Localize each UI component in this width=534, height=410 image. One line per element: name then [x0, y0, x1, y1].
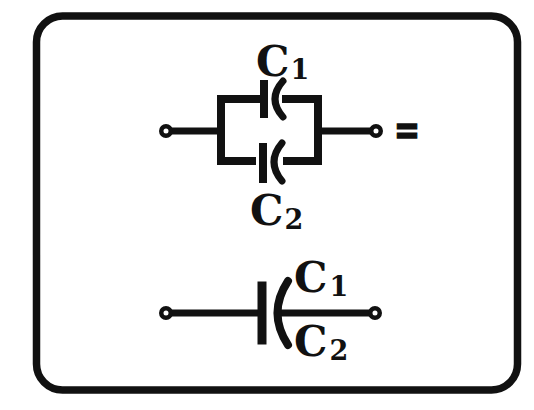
equivalent-right-terminal-icon [370, 308, 380, 318]
figure-canvas: C1 C2 = C1 C2 [0, 0, 534, 410]
parallel-loop-left-wire [221, 99, 261, 161]
equivalent-circuit: C1 C2 [161, 253, 380, 366]
parallel-left-terminal-icon [161, 126, 171, 136]
capacitor-equivalence-diagram: C1 C2 = C1 C2 [0, 0, 534, 410]
parallel-loop-right-wire [282, 99, 318, 161]
capacitor-c2-curved-plate-icon [274, 143, 282, 181]
equivalent-left-terminal-icon [161, 308, 171, 318]
equivalent-c2-label: C2 [294, 317, 348, 366]
capacitor-c1-curved-plate-icon [275, 81, 283, 117]
equivalent-c1-label: C1 [294, 253, 348, 302]
parallel-c1-label: C1 [256, 37, 309, 86]
parallel-circuit: C1 C2 [161, 37, 381, 235]
equals-sign: = [394, 107, 420, 153]
parallel-right-terminal-icon [371, 126, 381, 136]
parallel-c2-label: C2 [250, 186, 303, 235]
